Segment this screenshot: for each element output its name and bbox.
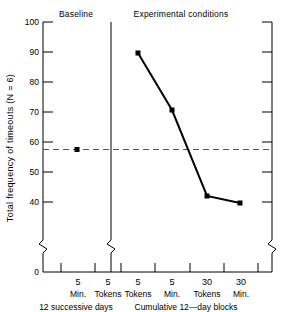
- y-tick-label-0: 0: [34, 267, 39, 277]
- y-axis-title: Total frequency of timeouts (N = 6): [5, 74, 15, 222]
- data-point-experimental-3: [238, 201, 243, 206]
- panel-title-baseline: Baseline: [59, 9, 93, 19]
- x-tick-number-1: 5: [105, 277, 110, 287]
- x-axis-ticks: [61, 263, 258, 272]
- x-tick-unit-5: Min.: [233, 289, 249, 299]
- x-tick-unit-3: Min.: [164, 289, 180, 299]
- panel-title-experimental: Experimental conditions: [134, 9, 229, 19]
- y-tick-label-80: 80: [30, 77, 40, 87]
- y-tick-label-100: 100: [25, 17, 39, 27]
- data-point-experimental-1: [170, 108, 175, 113]
- data-point-experimental-0: [136, 51, 141, 56]
- y-tick-label-90: 90: [30, 47, 40, 57]
- y-axis-break-mark: [39, 240, 47, 253]
- right-axis-ticks: [262, 22, 272, 202]
- y-axis-ticks: [43, 22, 53, 202]
- series-baseline: [75, 147, 80, 152]
- chart-figure: Baseline Experimental conditions 100 90 …: [0, 0, 283, 312]
- y-tick-label-60: 60: [30, 137, 40, 147]
- x-tick-number-0: 5: [75, 277, 80, 287]
- group-label-baseline: 12 successive days: [39, 302, 113, 312]
- series-experimental-line: [138, 53, 240, 203]
- group-label-experimental: Cumulative 12—day blocks: [135, 302, 238, 312]
- x-tick-unit-4: Tokens: [194, 289, 221, 299]
- x-tick-number-4: 30: [202, 277, 212, 287]
- x-tick-unit-1: Tokens: [95, 289, 122, 299]
- x-tick-number-5: 30: [236, 277, 246, 287]
- y-tick-label-40: 40: [30, 197, 40, 207]
- x-tick-unit-0: Min.: [70, 289, 86, 299]
- x-tick-unit-2: Tokens: [125, 289, 152, 299]
- data-point-baseline-0: [75, 147, 80, 152]
- data-point-experimental-2: [205, 194, 210, 199]
- y-tick-label-70: 70: [30, 107, 40, 117]
- series-experimental: [136, 51, 243, 206]
- right-axis-break-mark: [268, 240, 276, 253]
- x-tick-number-2: 5: [135, 277, 140, 287]
- timeouts-line-chart: Baseline Experimental conditions 100 90 …: [0, 0, 283, 312]
- panel-divider-break-mark: [107, 240, 115, 253]
- x-tick-number-3: 5: [169, 277, 174, 287]
- y-tick-label-50: 50: [30, 167, 40, 177]
